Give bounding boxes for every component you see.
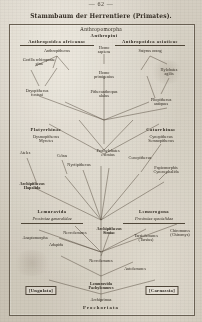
box-ungulata: [Ungulata] [25,286,56,295]
taxon-homo-sapiens: Homosapiens [98,46,110,55]
rule-prosimiae-specialidae [123,223,185,224]
taxon-papiomorphis: PapiomorphisCynocephalida [153,166,178,175]
group-catarrhinae: Catarrhinae [146,128,176,133]
group-anthropoidea-asiaticae: Anthropoidea asiaticae [122,40,178,45]
taxon-archiprimas: Archiprimas [91,298,112,302]
box-carnassia: [Carnassia] [145,286,178,295]
taxon-ateles: Ateles [20,151,31,155]
root-prochoriata: Prochoriata [83,306,119,311]
taxon-autolemures: Autolemures [124,267,146,271]
taxon-necrolemures-bottom: Necrolemures [89,259,113,263]
taxon-anaptomorpha: Anaptomorpha [22,236,47,240]
taxon-nyctipithecus: Nyctipithecus [67,163,90,167]
taxon-anthropithecus: Anthropithecus [44,49,70,53]
taxon-dysmopithecus: DysmopithecusMycetes [33,135,59,144]
subtitle-prosimiae-generalidae: Prosimiae generalidae [32,217,71,221]
taxon-chiromures: Chiromures(Chiromys) [170,229,190,238]
taxon-archipithecus-hapalida: ArchipithecusHapalida [19,182,44,191]
taxon-homo-primigenius: Homoprimigenius [94,71,114,80]
taxon-cebus: Cebus [57,154,67,158]
taxon-lemuravida-pachylemures: LemuravidaPachylemures [88,282,113,291]
subtitle-prosimiae-specialidae: Prosimiae specialidae [135,217,173,221]
taxon-cenopithecus: Cenopithecus [129,156,152,160]
group-lemuravida: Lemuravida [37,210,66,215]
rule-prosimiae-generalidae [21,223,83,224]
taxon-tarsiolemures: Tarsiolemures(Tarsius) [134,234,158,243]
rule-anthropoidea-asiaticae [115,45,185,46]
heading-anthropini: Anthropini [91,34,118,39]
group-anthropoidea-africanae: Anthropoidea africanae [28,40,86,45]
group-lemurogona: Lemurogona [139,210,169,215]
taxon-prothylobates: Prothylobateseximius [96,149,119,158]
taxon-dryopithecus-fontani: Dryopithecusfontani [26,89,49,98]
rule-anthropoidea-africanae [20,45,94,46]
taxon-cynopithecus: CynopithecusSemnopithecus [148,135,174,144]
phylogenetic-tree-diagram: AnthropomorphaAnthropiniAnthropoidea afr… [9,24,193,314]
taxon-gorilla-schimpanse: Gorilla schimpansegina [23,58,55,67]
taxon-satyrus-orang: Satyrus orang [138,49,161,53]
group-platyrrhinae: Platyrrhinae [30,128,61,133]
taxon-archipithecus-similae: ArchipithecusSimiae [96,227,121,236]
taxon-pliopithecus-antiquus: Pliopithecusantiquus [151,98,172,107]
taxon-hylobates-agilis: Hylobatesagilis [161,68,178,77]
taxon-pithecanthropus: Pithecanthropusalalus [91,90,118,99]
page-number: — 62 — [0,1,202,7]
taxon-adapida: Adapida [49,243,63,247]
heading-anthropomorpha: Anthropomorpha [80,27,122,33]
page-title: Stammbaum der Herrentiere (Primates). [0,12,202,20]
scanned-page: — 62 — Stammbaum der Herrentiere (Primat… [0,0,202,322]
taxon-necrolemures-top: Necrolemures [63,231,87,235]
